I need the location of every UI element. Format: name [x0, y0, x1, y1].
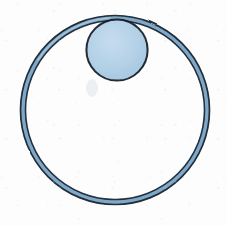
small-circle [86, 19, 147, 80]
tangent-circles-diagram [0, 0, 227, 226]
figure-canvas: Two tangent circles A large circle drawn… [0, 0, 227, 226]
pencil-smudge [86, 79, 98, 97]
